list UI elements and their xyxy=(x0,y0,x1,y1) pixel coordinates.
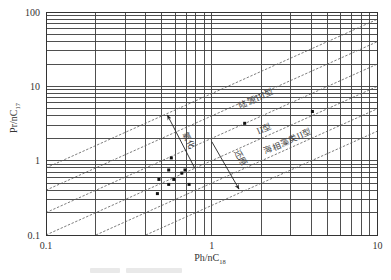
y-tick-label: 1 xyxy=(35,155,40,166)
figure-caption-illegible xyxy=(126,268,182,273)
data-point-marker xyxy=(156,192,159,195)
data-point-marker xyxy=(167,169,170,172)
y-axis-title: Pr/nC17 xyxy=(8,102,21,133)
data-point-marker xyxy=(167,183,170,186)
data-point-marker xyxy=(170,156,173,159)
y-tick-label: 100 xyxy=(25,7,40,18)
data-point-marker xyxy=(311,110,314,113)
y-axis-title-subscript: 17 xyxy=(14,102,21,109)
y-tick-label: 10 xyxy=(30,81,40,92)
x-axis-title-main: Ph/nC xyxy=(194,252,219,263)
figure-caption-illegible xyxy=(90,268,120,273)
chart-figure: 陆源III型II型海相藻类II型氧化还原 0.11100.1110100 Ph/… xyxy=(0,0,391,280)
x-tick-label: 1 xyxy=(209,240,214,251)
region-label: 还原 xyxy=(232,148,250,169)
grid xyxy=(46,12,378,235)
data-point-marker xyxy=(188,183,191,186)
x-tick-label: 0.1 xyxy=(40,240,53,251)
data-point-marker xyxy=(157,178,160,181)
data-point-marker xyxy=(184,169,187,172)
data-point-marker xyxy=(243,122,246,125)
y-axis-title-main: Pr/nC xyxy=(8,109,19,133)
data-point-marker xyxy=(172,178,175,181)
reduction-arrow-icon xyxy=(212,142,239,189)
chart-canvas: 陆源III型II型海相藻类II型氧化还原 0.11100.1110100 Ph/… xyxy=(0,0,391,280)
x-axis-title: Ph/nC18 xyxy=(194,252,226,265)
x-tick-label: 10 xyxy=(373,240,383,251)
x-axis-title-subscript: 18 xyxy=(219,258,226,265)
data-point-marker xyxy=(180,172,183,175)
y-tick-label: 0.1 xyxy=(28,230,41,241)
trend-arrows xyxy=(167,115,239,189)
region-label: 氧化 xyxy=(180,130,197,151)
